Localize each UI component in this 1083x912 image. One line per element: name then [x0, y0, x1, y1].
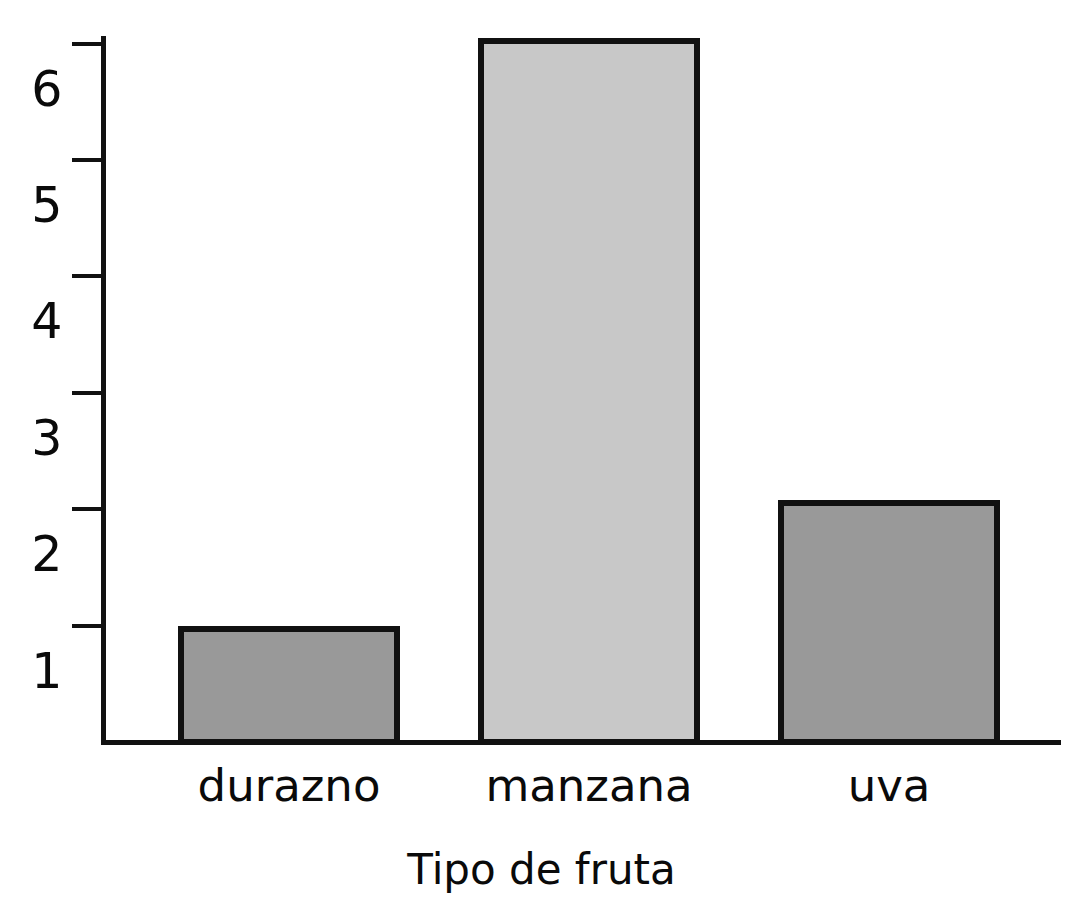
y-axis-tick [72, 391, 104, 395]
x-axis-title: Tipo de fruta [0, 849, 1083, 891]
bar-fill [784, 506, 994, 739]
y-axis-tick [72, 274, 104, 278]
y-axis-tick-label: 2 [6, 530, 62, 579]
bar [778, 500, 1000, 745]
y-axis-tick-label: 6 [6, 65, 62, 114]
x-axis-category-label: durazno [138, 763, 440, 808]
y-axis-tick [72, 42, 104, 46]
bar-fill [484, 44, 694, 739]
y-axis-tick-label: 5 [6, 181, 62, 230]
y-axis-tick [72, 624, 104, 628]
y-axis-tick-label: 4 [6, 297, 62, 346]
y-axis-tick-label: 1 [6, 647, 62, 696]
bar [178, 626, 400, 745]
plot-area: 123456 duraznomanzanauva Tipo de fruta [0, 0, 1083, 912]
y-axis-tick [72, 507, 104, 511]
y-axis-tick-label: 3 [6, 414, 62, 463]
bar-fill [184, 632, 394, 739]
bar [478, 38, 700, 745]
y-axis-tick [72, 158, 104, 162]
bar-chart: 123456 duraznomanzanauva Tipo de fruta [0, 0, 1083, 912]
x-axis-category-label: uva [738, 763, 1040, 808]
x-axis-category-label: manzana [438, 763, 740, 808]
